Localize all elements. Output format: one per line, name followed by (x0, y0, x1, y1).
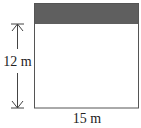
width-label: 15 m (73, 111, 102, 126)
shaded-band (35, 3, 139, 24)
height-label: 12 m (3, 54, 32, 69)
rectangle-diagram: 12 m 15 m (0, 0, 141, 128)
